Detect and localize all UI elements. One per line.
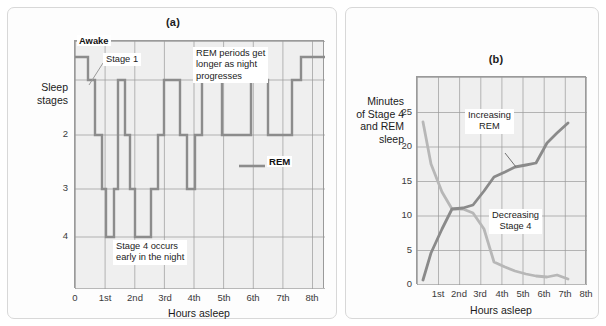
panel-b-ytick-0: 0 bbox=[398, 278, 412, 289]
panel-a-xtick-2nd: 2nd bbox=[124, 292, 146, 303]
panel-a-xtick-3rd: 3rd bbox=[154, 292, 176, 303]
panel-b-xtick-6th: 6th bbox=[533, 288, 555, 299]
panel-a-rem-annotation: REM periods get longer as night progress… bbox=[193, 47, 268, 83]
panel-b-xtick-1st: 1st bbox=[427, 288, 449, 299]
panel-a-plot-area: Awake Stage 1 REM periods get longer as … bbox=[74, 40, 324, 288]
panel-b-xtick-2nd: 2nd bbox=[448, 288, 470, 299]
panel-a-xtick-8th: 8th bbox=[301, 292, 323, 303]
panel-a-xtick-4th: 4th bbox=[183, 292, 205, 303]
panel-b-y-axis-label: Minutes of Stage 4 and REM sleep bbox=[346, 95, 404, 145]
panel-a-x-axis-label: Hours asleep bbox=[74, 307, 324, 319]
panel-b-ytick-5: 5 bbox=[398, 244, 412, 255]
panel-a-stage4-annotation: Stage 4 occurs early in the night bbox=[113, 240, 187, 265]
panel-a-hypnogram-trace bbox=[75, 57, 325, 237]
panel-a-legend-label: REM bbox=[267, 156, 292, 167]
panel-b: (b) Minutes of Stage 4 and REM sleep 0 5… bbox=[345, 7, 599, 319]
panel-b-xtick-4th: 4th bbox=[491, 288, 513, 299]
panel-a-xtick-7th: 7th bbox=[272, 292, 294, 303]
panel-a-xtick-5th: 5th bbox=[213, 292, 235, 303]
panel-a-y-axis-label: Sleep stages bbox=[16, 81, 68, 106]
panel-b-xtick-7th: 7th bbox=[554, 288, 576, 299]
panel-b-ytick-25: 25 bbox=[394, 106, 412, 117]
panel-b-x-axis-label: Hours asleep bbox=[416, 304, 586, 316]
panel-b-title: (b) bbox=[401, 53, 591, 65]
panel-b-ytick-20: 20 bbox=[394, 140, 412, 151]
panel-b-rem-annotation: Increasing REM bbox=[465, 109, 514, 134]
panel-a-ytick-3: 3 bbox=[54, 182, 68, 193]
sleep-stages-figure: (a) Sleep stages 2 3 4 bbox=[0, 0, 606, 326]
panel-b-plot-area: Increasing REM Decreasing Stage 4 bbox=[416, 76, 586, 284]
panel-a: (a) Sleep stages 2 3 4 bbox=[7, 7, 337, 319]
panel-a-xtick-6th: 6th bbox=[242, 292, 264, 303]
panel-a-xtick-1st: 1st bbox=[95, 292, 115, 303]
panel-b-rem-leader-line bbox=[505, 153, 516, 167]
panel-b-xtick-8th: 8th bbox=[575, 288, 597, 299]
panel-a-xtick-0: 0 bbox=[68, 292, 82, 303]
panel-a-title: (a) bbox=[8, 16, 338, 28]
panel-a-legend-swatch bbox=[239, 161, 265, 171]
panel-a-ytick-4: 4 bbox=[54, 230, 68, 241]
panel-b-rem-line bbox=[423, 123, 568, 280]
panel-b-xtick-3rd: 3rd bbox=[469, 288, 491, 299]
panel-b-xtick-5th: 5th bbox=[512, 288, 534, 299]
panel-a-awake-label: Awake bbox=[77, 35, 111, 46]
panel-b-ytick-15: 15 bbox=[394, 175, 412, 186]
panel-a-stage1-callout: Stage 1 bbox=[103, 53, 141, 66]
panel-b-ytick-10: 10 bbox=[394, 209, 412, 220]
panel-a-ytick-2: 2 bbox=[54, 128, 68, 139]
panel-b-stage4-annotation: Decreasing Stage 4 bbox=[489, 209, 542, 234]
